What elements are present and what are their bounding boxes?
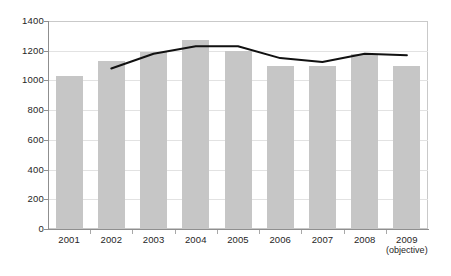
x-axis-tick-mark [132, 230, 133, 234]
x-axis-tick-label: 2009(objective) [379, 234, 435, 256]
y-axis-tick-label: 1400 [0, 15, 44, 26]
bar [182, 40, 209, 229]
bar [56, 76, 83, 229]
y-axis-tick-label: 800 [0, 104, 44, 115]
bar-series [48, 21, 428, 229]
bar [351, 54, 378, 229]
bar [225, 51, 252, 229]
y-axis-tick-label: 1000 [0, 74, 44, 85]
x-axis-tick-mark [175, 230, 176, 234]
chart-container: 1400120010008006004002000 20012002200320… [0, 0, 451, 276]
x-axis-tick-sublabel: (objective) [379, 245, 435, 256]
y-axis-tick-label: 600 [0, 134, 44, 145]
y-axis-tick-label: 1200 [0, 45, 44, 56]
y-axis-tick-label: 0 [0, 223, 44, 234]
x-axis-tick-mark [386, 230, 387, 234]
bar [98, 61, 125, 229]
bar [393, 66, 420, 229]
bar [267, 66, 294, 229]
x-axis-tick-mark [301, 230, 302, 234]
x-axis-line [48, 229, 429, 230]
bar [309, 66, 336, 229]
x-axis-tick-mark [90, 230, 91, 234]
x-axis-tick-mark [217, 230, 218, 234]
x-axis-tick-mark [259, 230, 260, 234]
bar [140, 52, 167, 229]
x-axis-tick-mark [344, 230, 345, 234]
y-axis-tick-label: 200 [0, 193, 44, 204]
y-axis-tick-label: 400 [0, 164, 44, 175]
